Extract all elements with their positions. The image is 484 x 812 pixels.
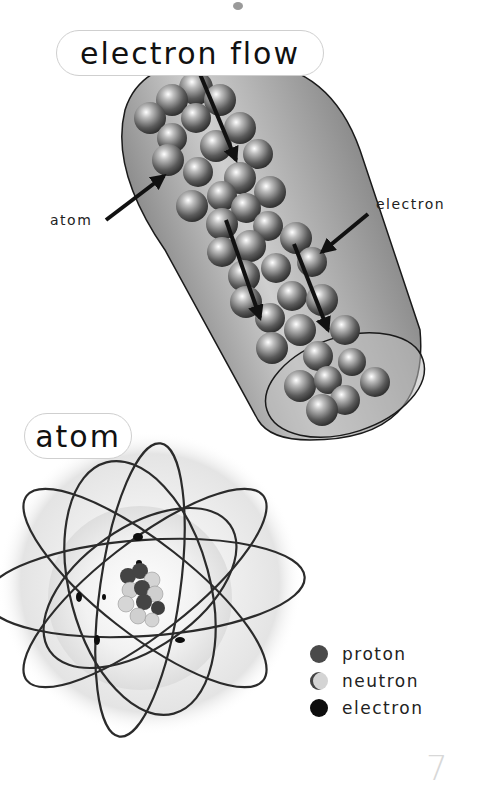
electron-label: electron xyxy=(376,196,445,212)
legend-label: electron xyxy=(342,698,423,718)
atom-title: atom xyxy=(24,413,132,459)
electron-swatch-icon xyxy=(310,699,328,717)
page-number: 7 xyxy=(426,748,448,788)
proton-swatch-icon xyxy=(310,645,328,663)
atom-diagram xyxy=(0,431,308,742)
legend-item-neutron: neutron xyxy=(310,667,423,694)
electron-flow-title: electron flow xyxy=(56,30,324,76)
legend-item-electron: electron xyxy=(310,694,423,721)
atom-label: atom xyxy=(50,212,92,228)
legend-label: neutron xyxy=(342,671,419,691)
neutron-swatch-icon xyxy=(310,672,328,690)
legend-item-proton: proton xyxy=(310,640,423,667)
legend-label: proton xyxy=(342,644,407,664)
legend: proton neutron electron xyxy=(310,640,423,721)
